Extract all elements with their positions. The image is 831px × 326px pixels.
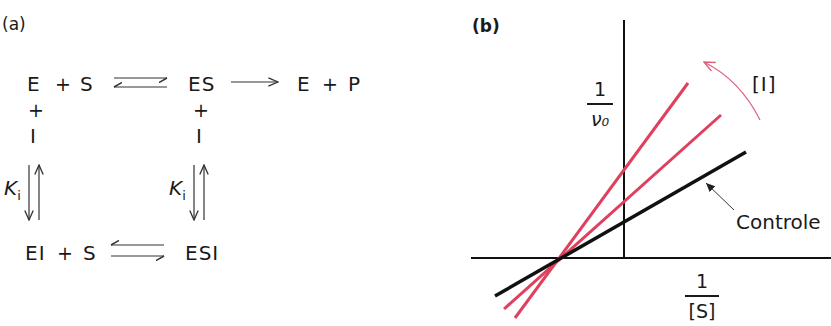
panel-b-label: (b) <box>472 16 500 36</box>
control-pointer-arrow <box>706 183 734 210</box>
y-axis-label: 1 ν₀ <box>587 78 613 130</box>
equilibrium-arrow-ei <box>29 165 39 220</box>
equilibrium-arrow-esi <box>194 165 204 220</box>
equilibrium-arrow-e-s-es <box>114 78 167 87</box>
inhibitor-label: [I] <box>752 72 777 96</box>
x-axis-label: 1 [S] <box>685 270 719 322</box>
control-label: Controle <box>736 210 821 234</box>
equilibrium-arrow-ei-esi <box>111 245 164 256</box>
